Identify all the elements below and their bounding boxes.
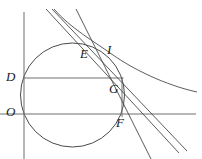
diagram-canvas bbox=[0, 0, 202, 159]
point-label-E: E bbox=[80, 47, 88, 60]
point-label-G: G bbox=[109, 82, 118, 95]
point-label-D: D bbox=[6, 70, 15, 83]
point-label-F: F bbox=[116, 116, 124, 129]
geometry-diagram: D O E I G F bbox=[0, 0, 202, 159]
hyperbola-branch-curve bbox=[54, 9, 197, 92]
point-label-O: O bbox=[6, 105, 15, 118]
point-label-I: I bbox=[107, 43, 111, 56]
